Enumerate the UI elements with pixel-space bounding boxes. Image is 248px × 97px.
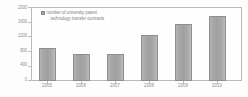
bar-2006 [73, 54, 90, 81]
bar-chart-figure: 2000 1600 1200 800 400 0 2005 2006 2007 [0, 0, 248, 97]
y-tick-label-400: 400 [20, 62, 27, 68]
x-tick-label-2007: 2007 [104, 83, 126, 90]
legend-label: number of university patent technology t… [47, 10, 105, 21]
x-tick-label-2008: 2008 [138, 83, 160, 90]
x-tick-label-2006: 2006 [70, 83, 92, 90]
y-tick-label-800: 800 [20, 48, 27, 54]
bar-2008 [141, 35, 158, 81]
legend-label-line2: technology transfer contracts [47, 16, 105, 22]
y-tick-label-1200: 1200 [18, 33, 27, 39]
chart-legend: number of university patent technology t… [40, 9, 152, 21]
y-tick-label-1600: 1600 [18, 19, 27, 25]
bar-2009 [175, 24, 192, 81]
legend-entry: number of university patent technology t… [41, 10, 151, 20]
y-tick-label-2000: 2000 [18, 5, 27, 11]
x-tick-label-2009: 2009 [172, 83, 194, 90]
y-tick-label-0: 0 [25, 77, 27, 83]
y-axis: 2000 1600 1200 800 400 0 [0, 0, 29, 97]
x-tick-label-2005: 2005 [36, 83, 58, 90]
x-tick-label-2010: 2010 [206, 83, 228, 90]
legend-swatch-icon [41, 11, 45, 15]
bar-2005 [39, 48, 56, 81]
bar-2007 [107, 54, 124, 81]
x-axis: 2005 2006 2007 2008 2009 2010 [31, 83, 242, 95]
bar-2010 [209, 16, 226, 81]
